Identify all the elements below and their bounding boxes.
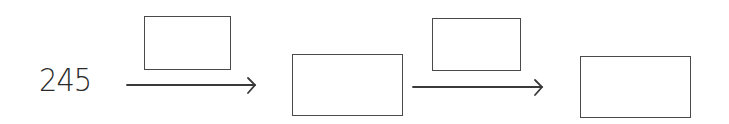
arrow-right-icon-2 xyxy=(413,80,542,95)
arrow-right-icon-1 xyxy=(127,78,255,93)
arrows-layer xyxy=(0,0,729,124)
